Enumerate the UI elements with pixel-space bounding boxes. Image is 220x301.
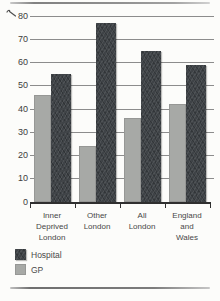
category-label-line: London	[25, 232, 80, 243]
legend-label: Hospital	[31, 250, 62, 260]
y-axis-tick-label: 70	[0, 34, 28, 45]
bar-hospital-2	[96, 23, 116, 202]
category-label-4: EnglandandWales	[160, 210, 215, 243]
y-axis-tick-label: 0	[0, 197, 28, 208]
scanned-page: 01020304050607080InnerDeprivedLondonOthe…	[0, 0, 220, 301]
bottom-rule	[10, 287, 210, 289]
category-label-line: and	[160, 221, 215, 232]
y-axis-tick-label: 30	[0, 127, 28, 138]
bar-gp-2	[79, 146, 96, 202]
top-rule	[10, 2, 210, 4]
legend-swatch-hospital	[15, 249, 26, 260]
category-label-line: Wales	[160, 232, 215, 243]
y-axis-tick-label: 10	[0, 173, 28, 184]
x-axis-tick	[120, 204, 121, 208]
y-axis-tick-label: 80	[0, 11, 28, 22]
bar-hospital-1	[51, 74, 71, 202]
y-axis-tick-label: 50	[0, 80, 28, 91]
y-axis-tick-label: 20	[0, 150, 28, 161]
bar-gp-3	[124, 118, 141, 202]
y-axis-tick-label: 40	[0, 104, 28, 115]
legend-swatch-gp	[15, 264, 26, 275]
x-axis-tick	[75, 204, 76, 208]
gridline-60	[30, 62, 214, 63]
bar-gp-4	[169, 104, 186, 202]
y-axis-tick-label: 60	[0, 57, 28, 68]
legend-label: GP	[31, 265, 43, 275]
gridline-80	[30, 16, 214, 17]
gridline-70	[30, 39, 214, 40]
bar-hospital-4	[186, 65, 206, 202]
bar-gp-1	[34, 95, 51, 202]
x-axis-tick	[30, 204, 31, 208]
category-label-line: England	[160, 210, 215, 221]
x-axis-tick	[165, 204, 166, 208]
legend-item-gp: GP	[15, 264, 95, 276]
bar-hospital-3	[141, 51, 161, 202]
legend-item-hospital: Hospital	[15, 249, 95, 261]
x-axis-tick	[210, 204, 211, 208]
